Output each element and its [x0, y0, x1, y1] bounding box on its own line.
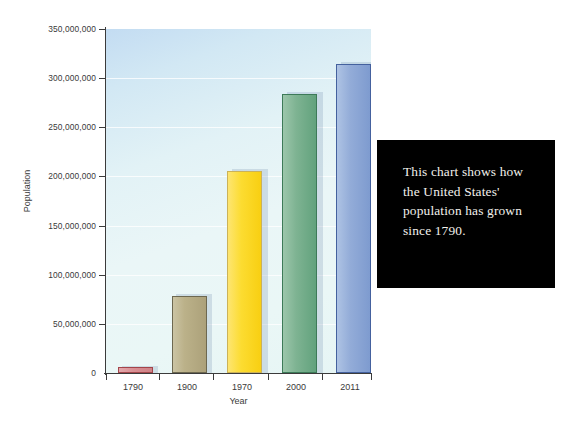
gridline [106, 78, 371, 79]
y-tick-350000000: 350,000,000 [0, 24, 96, 34]
gridline [106, 127, 371, 128]
x-tick-mark [213, 374, 214, 380]
y-tick-150000000: 150,000,000 [0, 221, 96, 231]
population-bar-chart: Population 350,000,000 300,000,000 250,0… [0, 0, 381, 423]
caption-text: This chart shows how the United States' … [403, 162, 535, 240]
caption-box: This chart shows how the United States' … [377, 140, 555, 288]
bar-1970[interactable] [227, 171, 262, 373]
x-tick-mark [322, 374, 323, 380]
x-tick-label-2011: 2011 [320, 382, 380, 392]
bar-1900[interactable] [172, 296, 207, 373]
bar-2011[interactable] [336, 64, 371, 373]
x-tick-mark [159, 374, 160, 380]
y-tick-label: 300,000,000 [6, 73, 96, 83]
x-tick-label-1900: 1900 [157, 382, 217, 392]
x-tick-label-1790: 1790 [103, 382, 163, 392]
y-tick-50000000: 50,000,000 [0, 319, 96, 329]
bar-2000[interactable] [282, 94, 317, 373]
y-tick-label: 250,000,000 [6, 122, 96, 132]
x-tick-label-2000: 2000 [266, 382, 326, 392]
y-tick-label: 0 [6, 368, 96, 378]
y-tick-200000000: 200,000,000 [0, 171, 96, 181]
x-tick-mark [371, 374, 372, 380]
x-axis-line [104, 373, 372, 374]
y-axis-title: Population [22, 151, 32, 231]
x-tick-mark [268, 374, 269, 380]
y-tick-label: 100,000,000 [6, 270, 96, 280]
y-tick-0: 0 [0, 368, 96, 378]
x-tick-mark [106, 374, 107, 380]
y-axis-line [105, 27, 106, 375]
x-axis-title: Year [106, 396, 371, 406]
y-tick-label: 200,000,000 [6, 171, 96, 181]
y-tick-250000000: 250,000,000 [0, 122, 96, 132]
y-tick-300000000: 300,000,000 [0, 73, 96, 83]
y-tick-label: 350,000,000 [6, 24, 96, 34]
plot-area [106, 29, 371, 373]
x-tick-label-1970: 1970 [212, 382, 272, 392]
y-tick-label: 50,000,000 [6, 319, 96, 329]
y-tick-100000000: 100,000,000 [0, 270, 96, 280]
y-tick-label: 150,000,000 [6, 221, 96, 231]
